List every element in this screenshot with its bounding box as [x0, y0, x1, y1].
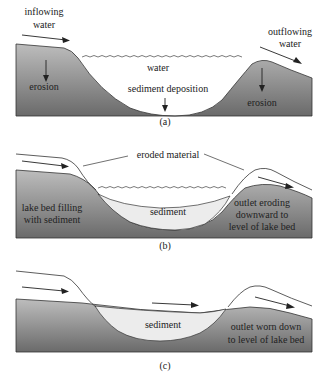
label-lake-bed-2: with sediment — [24, 214, 81, 225]
label-inflowing-water: water — [33, 19, 56, 30]
deposition-arrow-icon — [162, 98, 168, 112]
inflow-arrow-icon — [22, 161, 69, 169]
caption-b: (b) — [0, 240, 330, 251]
water-surface-waves — [82, 56, 242, 58]
label-outflowing-water: water — [279, 38, 302, 49]
label-eroded-material: eroded material — [137, 149, 200, 160]
panel-a-diagram: inflowing water outflowing water water s… — [0, 0, 330, 118]
original-right-profile — [228, 286, 312, 307]
lake-flow-arrow-icon — [152, 302, 199, 308]
eroded-leader-left — [83, 156, 128, 166]
caption-a: (a) — [0, 116, 330, 127]
label-outlet-1: outlet eroding — [234, 197, 290, 208]
label-outlet-1: outlet worn down — [231, 321, 302, 332]
panel-c: sediment outlet worn down to level of la… — [0, 255, 330, 381]
panel-b-diagram: eroded material lake bed filling with se… — [0, 130, 330, 242]
label-erosion-left: erosion — [29, 81, 58, 92]
label-outlet-3: level of lake bed — [229, 221, 295, 232]
label-outflowing: outflowing — [268, 26, 312, 37]
panel-c-diagram: sediment outlet worn down to level of la… — [0, 255, 330, 359]
label-erosion-right: erosion — [247, 97, 276, 108]
label-sediment: sediment — [150, 206, 186, 217]
panel-a: inflowing water outflowing water water s… — [0, 0, 330, 130]
label-sediment: sediment — [145, 319, 181, 330]
label-outlet-2: to level of lake bed — [228, 334, 305, 345]
caption-c: (c) — [0, 360, 330, 371]
eroded-leader-right — [204, 154, 244, 170]
label-lake-bed-1: lake bed filling — [22, 202, 83, 213]
label-inflowing: inflowing — [25, 6, 64, 17]
label-outlet-2: downward to — [236, 209, 289, 220]
label-sediment-deposition: sediment deposition — [128, 83, 208, 94]
inflowing-arrow-icon — [22, 35, 70, 43]
panel-b: eroded material lake bed filling with se… — [0, 130, 330, 255]
label-water: water — [147, 62, 170, 73]
water-surface-waves — [98, 187, 226, 189]
inflow-arrow-icon — [22, 287, 69, 294]
